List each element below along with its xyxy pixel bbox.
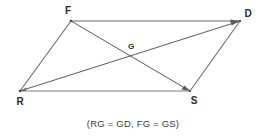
vertex-dot-D	[239, 20, 241, 22]
geometry-diagram-svg: F D S R G (RG = GD, FG = GS)	[0, 0, 266, 138]
vertex-dot-R	[19, 90, 22, 93]
interior-point-labels: G	[128, 42, 134, 51]
vertex-label-D: D	[244, 8, 251, 19]
figure-caption: (RG = GD, FG = GS)	[87, 118, 179, 129]
side-RF	[20, 21, 71, 91]
vertex-label-R: R	[16, 96, 24, 107]
vertex-dot-S	[189, 90, 191, 92]
vertex-dot-F	[70, 20, 73, 23]
parallelogram-diagonals	[20, 21, 240, 91]
intersection-label-G: G	[128, 42, 134, 51]
vertex-label-S: S	[191, 95, 198, 106]
geometry-figure: F D S R G (RG = GD, FG = GS)	[0, 0, 266, 138]
vertex-label-F: F	[65, 5, 71, 16]
side-DS	[190, 21, 240, 91]
diagonal-FS	[71, 21, 190, 91]
